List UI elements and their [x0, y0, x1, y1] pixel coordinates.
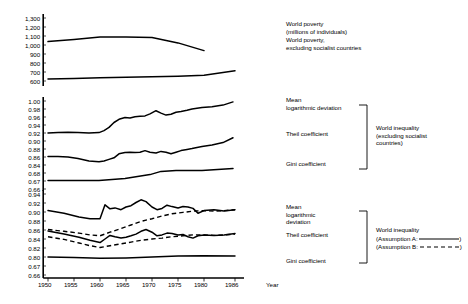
y-tick: 0.88	[28, 147, 40, 153]
x-tick: 1965	[116, 282, 129, 288]
y-tick: 0.84	[28, 163, 40, 169]
y-tick: 0.88	[28, 219, 40, 225]
panel1-annotation-total: World poverty (millions of individuals)	[286, 20, 347, 35]
panel3-annotation-theil: Theil coefficient	[286, 231, 328, 239]
panel-world-poverty: 1,300 1,200 1,100 1,000 900 800 700 600	[0, 0, 468, 94]
solid-line-sample	[419, 237, 459, 241]
x-tick: 1975	[168, 282, 181, 288]
y-tick: 0.94	[28, 192, 40, 198]
series-mld-assumption-a	[48, 200, 235, 219]
y-tick: 0.80	[28, 255, 40, 261]
y-tick: 0.68	[28, 171, 40, 177]
panel3-bracket-title: World inequality	[376, 226, 419, 234]
y-tick: 600	[30, 79, 40, 85]
panel3-annotation-gini: Gini coefficient	[286, 257, 326, 265]
y-tick: 1,300	[25, 16, 40, 22]
x-tick: 1955	[64, 282, 77, 288]
series-mean-log-deviation	[48, 102, 233, 133]
y-tick: 0.96	[28, 115, 40, 121]
y-tick: 800	[30, 61, 40, 67]
series-gini-coefficient	[48, 169, 233, 181]
dashed-line-sample	[420, 245, 460, 249]
x-axis-title: Year	[266, 282, 279, 288]
panel1-y-tick-labels: 1,300 1,200 1,100 1,000 900 800 700 600	[10, 0, 40, 94]
panel3-legend-assumption-a: (Assumption A: )	[376, 235, 461, 243]
x-tick: 1980	[194, 282, 207, 288]
assumption-a-label: (Assumption A:	[376, 235, 419, 242]
x-tick: 1950	[38, 282, 51, 288]
panel2-bracket	[358, 104, 370, 170]
panel3-x-tick-labels: 1950 1955 1960 1965 1970 1975 1980 1986	[42, 282, 282, 296]
y-tick: 0.86	[28, 155, 40, 161]
y-tick: 0.67	[28, 179, 40, 185]
panel3-plot-area	[42, 186, 282, 282]
panel3-annotation-mld: Mean logarithmic deviation	[286, 203, 315, 226]
y-tick: 0.92	[28, 201, 40, 207]
series-world-poverty-total	[48, 37, 204, 51]
panel3-legend-assumption-b: (Assumption B: )	[376, 243, 462, 251]
panel-world-inequality-assumptions: 0.94 0.92 0.90 0.88 0.86 0.84 0.82 0.80 …	[0, 186, 468, 304]
series-theil-assumption-a	[48, 230, 235, 243]
panel2-annotation-mld: Mean logarithmic deviation	[286, 96, 341, 111]
y-tick: 1,200	[25, 25, 40, 31]
y-tick: 0.82	[28, 246, 40, 252]
panel2-y-tick-labels: 1.00 0.98 0.96 0.94 0.92 0.90 0.88 0.86 …	[10, 94, 40, 186]
panel-world-inequality-excl-socialist: 1.00 0.98 0.96 0.94 0.92 0.90 0.88 0.86 …	[0, 94, 468, 186]
y-tick: 1,100	[25, 34, 40, 40]
assumption-b-label: (Assumption B:	[376, 243, 420, 250]
x-tick: 1970	[142, 282, 155, 288]
y-tick: 0.90	[28, 210, 40, 216]
y-tick: 0.94	[28, 123, 40, 129]
y-tick: 0.66	[28, 273, 40, 279]
figure-root: 1,300 1,200 1,100 1,000 900 800 700 600	[0, 0, 468, 304]
panel1-annotation-excl: World poverty, excluding socialist count…	[286, 36, 361, 51]
panel1-plot-area	[42, 10, 272, 90]
panel2-plot-area	[42, 94, 272, 194]
y-tick: 0.90	[28, 139, 40, 145]
series-gini-assumption	[48, 256, 235, 259]
panel3-bracket	[358, 210, 370, 264]
y-tick: 900	[30, 52, 40, 58]
series-world-poverty-excl-socialist	[48, 71, 235, 79]
panel2-bracket-label: World inequality (excluding socialist co…	[376, 124, 427, 147]
x-tick: 1986	[225, 282, 238, 288]
series-theil-coefficient	[48, 138, 233, 162]
y-tick: 0.98	[28, 107, 40, 113]
panel2-annotation-gini: Gini coefficient	[286, 160, 326, 168]
x-tick: 1960	[90, 282, 103, 288]
y-tick: 1,000	[25, 43, 40, 49]
y-tick: 0.67	[28, 264, 40, 270]
y-tick: 0.84	[28, 237, 40, 243]
panel3-y-tick-labels: 0.94 0.92 0.90 0.88 0.86 0.84 0.82 0.80 …	[10, 186, 40, 286]
y-tick: 0.92	[28, 131, 40, 137]
y-tick: 1.00	[28, 99, 40, 105]
assumption-a-paren: )	[459, 235, 461, 242]
y-tick: 700	[30, 70, 40, 76]
assumption-b-paren: )	[460, 243, 462, 250]
y-tick: 0.86	[28, 228, 40, 234]
panel2-annotation-theil: Theil coefficient	[286, 130, 328, 138]
